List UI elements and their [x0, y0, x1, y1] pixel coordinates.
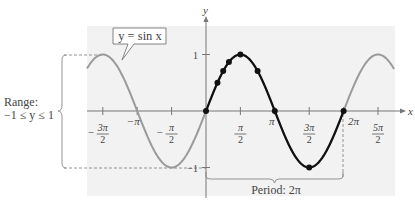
data-point — [237, 52, 243, 58]
svg-text:2: 2 — [100, 134, 105, 145]
y-axis-label: y — [202, 4, 208, 16]
x-tick-label: −π — [127, 115, 140, 127]
svg-text:5π: 5π — [373, 122, 384, 133]
svg-text:−: − — [88, 126, 94, 138]
sine-chart: −3π2−π−π2π2π3π22π5π2 y = sin x Range: −1… — [0, 0, 415, 202]
data-point — [341, 108, 347, 114]
data-point — [226, 59, 232, 65]
data-point — [255, 68, 261, 74]
svg-text:2: 2 — [307, 134, 312, 145]
x-axis-label: x — [407, 105, 413, 117]
x-tick-label: 2π — [348, 115, 360, 127]
svg-text:−: − — [156, 126, 162, 138]
svg-text:2: 2 — [169, 134, 174, 145]
data-point — [214, 80, 220, 86]
data-point — [203, 108, 209, 114]
period-label: Period: 2π — [251, 183, 301, 197]
range-label: Range: — [4, 95, 38, 109]
x-tick-label: π — [269, 115, 275, 127]
range-brace — [58, 55, 66, 168]
y-tick-label-neg1: −1 — [187, 163, 198, 174]
svg-text:3π: 3π — [97, 122, 109, 133]
x-axis-arrow-icon — [400, 109, 406, 114]
svg-text:2: 2 — [376, 134, 381, 145]
data-point — [306, 165, 312, 171]
y-tick-label-1: 1 — [193, 50, 198, 61]
data-point — [272, 108, 278, 114]
y-axis-arrow-icon — [204, 16, 209, 22]
svg-text:2: 2 — [238, 134, 243, 145]
range-inequality: −1 ≤ y ≤ 1 — [4, 108, 54, 122]
callout-text: y = sin x — [118, 29, 162, 43]
data-point — [220, 68, 226, 74]
svg-text:3π: 3π — [303, 122, 315, 133]
